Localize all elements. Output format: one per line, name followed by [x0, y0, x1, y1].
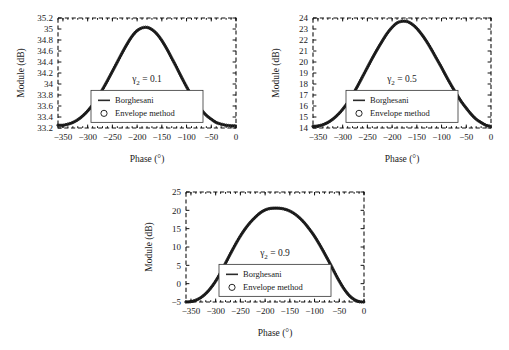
- svg-text:33.6: 33.6: [37, 101, 53, 111]
- svg-text:−100: −100: [177, 132, 196, 142]
- svg-text:−100: −100: [305, 306, 324, 316]
- svg-text:34: 34: [44, 79, 54, 89]
- svg-text:−100: −100: [432, 132, 451, 142]
- svg-text:−50: −50: [332, 306, 347, 316]
- svg-text:−250: −250: [231, 306, 250, 316]
- legend: BorghesaniEnvelope method: [346, 90, 458, 122]
- svg-text:21: 21: [299, 46, 308, 56]
- svg-text:−150: −150: [408, 132, 427, 142]
- x-tick-labels: −350−300−250−200−150−100−500: [309, 132, 494, 142]
- svg-text:−50: −50: [204, 132, 219, 142]
- y-axis-title: Module (dB): [144, 222, 155, 271]
- x-tick-labels: −350−300−250−200−150−100−500: [54, 132, 239, 142]
- x-axis-title: Phase (°): [130, 154, 165, 165]
- legend-label-envelope-method: Envelope method: [115, 108, 175, 118]
- svg-text:0: 0: [234, 132, 239, 142]
- svg-text:17: 17: [299, 90, 309, 100]
- svg-text:34.4: 34.4: [37, 57, 53, 67]
- svg-text:γ2 = 0.9: γ2 = 0.9: [259, 248, 290, 261]
- svg-text:34.2: 34.2: [37, 68, 53, 78]
- svg-text:20: 20: [299, 57, 309, 67]
- svg-text:−350: −350: [309, 132, 328, 142]
- x-axis-title: Phase (°): [385, 154, 420, 165]
- svg-text:0: 0: [489, 132, 494, 142]
- svg-text:−200: −200: [256, 306, 275, 316]
- svg-text:35: 35: [44, 24, 54, 34]
- legend: BorghesaniEnvelope method: [91, 90, 203, 122]
- svg-text:33.8: 33.8: [37, 90, 53, 100]
- svg-text:24: 24: [299, 13, 309, 23]
- y-tick-labels: 1415161718192021222324: [299, 13, 309, 133]
- svg-text:18: 18: [299, 79, 309, 89]
- svg-text:25: 25: [172, 187, 182, 197]
- y-axis-title: Module (dB): [16, 48, 27, 97]
- svg-text:0: 0: [362, 306, 367, 316]
- svg-text:−350: −350: [54, 132, 73, 142]
- svg-text:19: 19: [299, 68, 309, 78]
- legend-label-envelope-method: Envelope method: [370, 108, 430, 118]
- svg-text:33.4: 33.4: [37, 112, 53, 122]
- svg-text:−5: −5: [171, 297, 181, 307]
- svg-text:20: 20: [172, 206, 182, 216]
- svg-text:15: 15: [172, 224, 182, 234]
- y-axis-title: Module (dB): [271, 48, 282, 97]
- svg-text:15: 15: [299, 112, 309, 122]
- legend-label-envelope-method: Envelope method: [243, 282, 303, 292]
- svg-text:−200: −200: [383, 132, 402, 142]
- svg-text:−250: −250: [103, 132, 122, 142]
- svg-text:−300: −300: [78, 132, 97, 142]
- chart-panel-3: −350−300−250−200−150−100−500−50510152025…: [128, 178, 382, 350]
- svg-text:−50: −50: [459, 132, 474, 142]
- svg-text:10: 10: [172, 242, 182, 252]
- x-axis-title: Phase (°): [258, 328, 293, 339]
- x-tick-labels: −350−300−250−200−150−100−500: [182, 306, 367, 316]
- svg-text:γ2 = 0.1: γ2 = 0.1: [131, 74, 162, 87]
- svg-text:22: 22: [299, 35, 308, 45]
- svg-text:14: 14: [299, 123, 309, 133]
- chart-panel-1: −350−300−250−200−150−100−50033.233.433.6…: [0, 4, 254, 176]
- svg-text:16: 16: [299, 101, 309, 111]
- y-tick-labels: 33.233.433.633.83434.234.434.634.83535.2: [37, 13, 53, 133]
- gamma-annotation: γ2 = 0.5: [386, 74, 417, 87]
- svg-text:23: 23: [299, 24, 309, 34]
- svg-text:−150: −150: [281, 306, 300, 316]
- svg-text:−150: −150: [153, 132, 172, 142]
- legend-label-borghesani: Borghesani: [370, 95, 409, 105]
- svg-text:−200: −200: [128, 132, 147, 142]
- legend-label-borghesani: Borghesani: [243, 269, 282, 279]
- svg-text:0: 0: [177, 279, 182, 289]
- legend-label-borghesani: Borghesani: [115, 95, 154, 105]
- gamma-annotation: γ2 = 0.9: [259, 248, 290, 261]
- chart-panel-2: −350−300−250−200−150−100−500141516171819…: [255, 4, 509, 176]
- svg-text:33.2: 33.2: [37, 123, 53, 133]
- svg-text:5: 5: [177, 261, 182, 271]
- svg-text:γ2 = 0.5: γ2 = 0.5: [386, 74, 417, 87]
- y-tick-labels: −50510152025: [171, 187, 181, 307]
- svg-text:−300: −300: [206, 306, 225, 316]
- figure-container: −350−300−250−200−150−100−50033.233.433.6…: [0, 0, 509, 350]
- svg-text:35.2: 35.2: [37, 13, 53, 23]
- svg-text:34.8: 34.8: [37, 35, 53, 45]
- svg-text:34.6: 34.6: [37, 46, 53, 56]
- svg-text:−250: −250: [358, 132, 377, 142]
- legend: BorghesaniEnvelope method: [219, 264, 331, 296]
- svg-text:−300: −300: [333, 132, 352, 142]
- svg-text:−350: −350: [182, 306, 201, 316]
- gamma-annotation: γ2 = 0.1: [131, 74, 162, 87]
